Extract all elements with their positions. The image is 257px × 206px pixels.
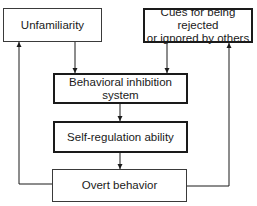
node-self-regulation-label: Self-regulation ability — [67, 131, 174, 144]
node-cues-label-line1: Cues for being rejected — [145, 6, 251, 32]
arrow-overt-to-cues — [187, 43, 229, 186]
node-unfamiliarity-label: Unfamiliarity — [21, 19, 84, 32]
node-behavioral-inhibition-system: Behavioral inhibition system — [53, 73, 188, 104]
node-self-regulation-ability: Self-regulation ability — [53, 121, 188, 153]
node-cues-label-line2: or ignored by others — [147, 32, 249, 45]
node-bis-label: Behavioral inhibition system — [55, 76, 186, 102]
node-overt-behavior-label: Overt behavior — [82, 179, 157, 192]
node-cues-rejected: Cues for being rejected or ignored by ot… — [143, 8, 253, 43]
node-unfamiliarity: Unfamiliarity — [3, 8, 102, 42]
arrow-overt-to-unfamiliarity — [19, 42, 52, 184]
node-overt-behavior: Overt behavior — [52, 169, 187, 202]
